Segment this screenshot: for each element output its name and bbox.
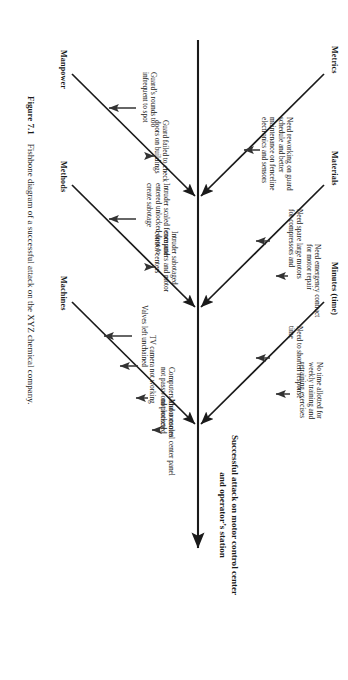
cause-arrows-materials: [256, 241, 288, 276]
cause-methods-2: Intruder sabotaged computers and motor c…: [153, 231, 178, 305]
figure-caption-text: Fishbone diagram of a successful attack …: [26, 144, 36, 405]
cause-machines-2: TV camera not working: [148, 335, 156, 409]
category-label-manpower: Manpower: [59, 50, 67, 89]
fishbone-diagram: Successful attack on motor control cente…: [48, 0, 348, 680]
cause-materials-2: Need emergency contract for motor repair: [304, 244, 321, 318]
category-label-methods: Methods: [59, 161, 67, 192]
rib-machines: [72, 302, 195, 424]
figure-number: Figure 7.1: [26, 96, 36, 135]
cause-materials-1: Need spare large motors for compressors …: [286, 209, 303, 283]
cause-machines-4: Motor control center panel not locked: [158, 399, 175, 481]
category-label-minutes: Minutes (time): [330, 262, 338, 315]
figure-page: Successful attack on motor control cente…: [0, 0, 348, 680]
category-label-machines: Machines: [59, 276, 67, 310]
cause-minutes-2: No time allotted for weekly training and…: [298, 362, 323, 436]
cause-metrics-1: Need reworking on guard schedule and bet…: [260, 117, 293, 191]
category-label-metrics: Metrics: [330, 46, 338, 74]
rib-manpower: [72, 74, 195, 196]
figure-caption: Figure 7.1Fishbone diagram of a successf…: [26, 96, 36, 404]
fishbone-effect: Successful attack on motor control cente…: [217, 430, 240, 600]
figure-canvas: Successful attack on motor control cente…: [0, 0, 348, 680]
category-label-materials: Materials: [330, 151, 338, 186]
